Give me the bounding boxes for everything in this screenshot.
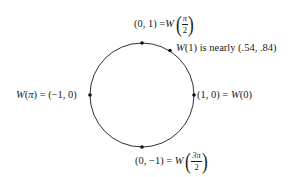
fraction-numerator: 3π	[191, 151, 202, 162]
fraction-denominator: 2	[183, 25, 187, 35]
label-top: (0, 1) = W ( π 2 )	[134, 10, 195, 38]
label-bottom: (0, −1) = W ( 3π 2 )	[135, 148, 209, 174]
point-top-dot	[140, 41, 144, 45]
point-w1-dot	[168, 49, 172, 53]
paren-open: (	[185, 150, 191, 173]
point-left-dot	[88, 93, 92, 97]
label-right-lhs: (1, 0) =	[197, 90, 231, 101]
label-right: (1, 0) = W (0)	[197, 89, 252, 102]
paren-close: )	[188, 13, 194, 36]
label-left: W ( π ) = (−1, 0)	[16, 89, 77, 102]
fraction-denominator: 2	[194, 162, 198, 172]
label-w1-arg: (1)	[185, 43, 197, 54]
label-bottom-lhs: (0, −1) =	[135, 156, 175, 167]
paren-open: (	[176, 13, 182, 36]
paren-close: )	[202, 150, 208, 173]
unit-circle	[90, 43, 194, 147]
label-left-func: W	[16, 90, 25, 101]
label-right-arg: (0)	[240, 90, 252, 101]
label-top-func: W	[165, 19, 174, 30]
label-bottom-func: W	[175, 156, 184, 167]
label-w1: W (1) is nearly (.54, .84)	[176, 42, 277, 55]
label-w1-func: W	[176, 43, 185, 54]
point-right-dot	[192, 93, 196, 97]
label-left-rhs: = (−1, 0)	[37, 90, 77, 101]
fraction-3pi-over-2: 3π 2	[191, 151, 202, 171]
label-right-func: W	[231, 90, 240, 101]
label-w1-text: is nearly (.54, .84)	[197, 43, 277, 54]
label-top-lhs: (0, 1) =	[134, 19, 165, 30]
